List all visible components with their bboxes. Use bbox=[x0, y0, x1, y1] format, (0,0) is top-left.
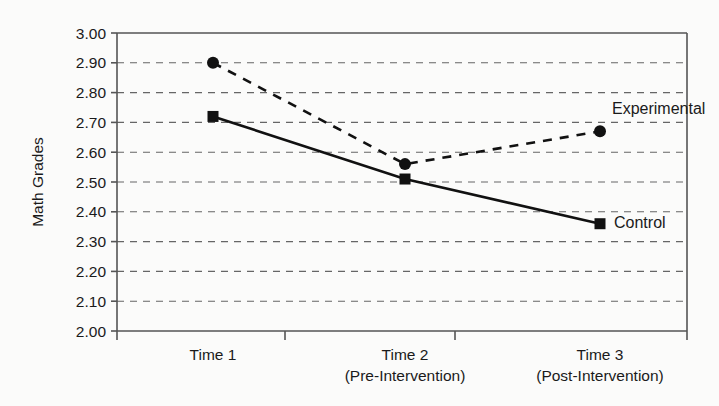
data-point-marker-circle bbox=[399, 158, 411, 170]
x-axis-category-label: Time 1 bbox=[190, 346, 237, 363]
y-axis-tick-label: 2.30 bbox=[76, 233, 107, 250]
data-point-marker-square bbox=[208, 111, 219, 122]
chart-figure: 3.002.902.802.702.602.502.402.302.202.10… bbox=[0, 0, 719, 406]
y-axis-ticks-group: 3.002.902.802.702.602.502.402.302.202.10… bbox=[76, 25, 117, 340]
y-axis-tick-label: 2.10 bbox=[76, 293, 107, 310]
y-axis-tick-label: 2.40 bbox=[76, 203, 107, 220]
x-axis-category-label: Time 3 bbox=[577, 346, 624, 363]
x-axis-category-sublabel: (Pre-Intervention) bbox=[345, 367, 466, 384]
data-point-marker-circle bbox=[594, 125, 606, 137]
y-axis-tick-label: 2.00 bbox=[76, 323, 107, 340]
data-point-marker-square bbox=[400, 174, 411, 185]
x-axis-ticks-group bbox=[117, 331, 687, 340]
x-axis-category-sublabel: (Post-Intervention) bbox=[536, 367, 664, 384]
y-axis-tick-label: 2.50 bbox=[76, 174, 107, 191]
y-axis-tick-label: 2.80 bbox=[76, 84, 107, 101]
line-chart-canvas: 3.002.902.802.702.602.502.402.302.202.10… bbox=[0, 0, 719, 406]
data-point-marker-square bbox=[595, 218, 606, 229]
y-axis-tick-label: 2.60 bbox=[76, 144, 107, 161]
y-axis-tick-label: 2.20 bbox=[76, 263, 107, 280]
y-axis-title: Math Grades bbox=[29, 137, 46, 227]
y-axis-tick-label: 3.00 bbox=[76, 25, 107, 42]
series-annotation-experimental: Experimental bbox=[612, 100, 705, 117]
data-point-marker-circle bbox=[207, 57, 219, 69]
series-annotation-control: Control bbox=[614, 214, 666, 231]
x-axis-category-label: Time 2 bbox=[382, 346, 429, 363]
y-axis-tick-label: 2.70 bbox=[76, 114, 107, 131]
x-axis-category-labels-group: Time 1Time 2(Pre-Intervention)Time 3(Pos… bbox=[190, 346, 664, 384]
y-axis-tick-label: 2.90 bbox=[76, 54, 107, 71]
